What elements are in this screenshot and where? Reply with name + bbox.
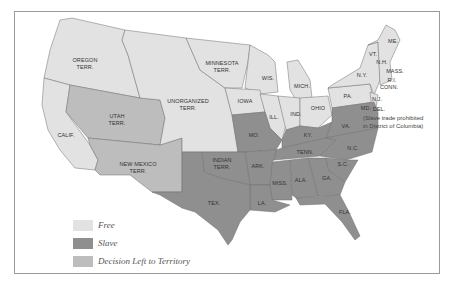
label-florida: FLA. bbox=[339, 209, 351, 216]
label-new-hampshire: N.H. bbox=[376, 59, 387, 66]
label-north-carolina: N.C. bbox=[347, 145, 358, 152]
annotation-line-2: in District of Columbia) bbox=[363, 122, 423, 130]
legend: Free Slave Decision Left to Territory bbox=[73, 216, 190, 270]
label-ohio: OHIO bbox=[311, 105, 325, 112]
label-maine: ME. bbox=[388, 38, 398, 45]
label-illinois: ILL. bbox=[269, 114, 279, 121]
label-kentucky: KY. bbox=[304, 132, 312, 139]
legend-item-territory: Decision Left to Territory bbox=[73, 252, 190, 270]
free-swatch bbox=[73, 220, 93, 231]
label-michigan: MICH. bbox=[294, 83, 310, 90]
label-oregon-terr: OREGON TERR. bbox=[72, 57, 97, 70]
territory-swatch bbox=[73, 256, 93, 267]
label-louisiana: LA. bbox=[258, 200, 267, 207]
region-wisconsin bbox=[245, 45, 278, 94]
label-pennsylvania: PA. bbox=[344, 93, 353, 100]
legend-label-territory: Decision Left to Territory bbox=[98, 256, 190, 266]
label-iowa: IOWA bbox=[238, 98, 253, 105]
dc-annotation: (Slave trade prohibited in District of C… bbox=[363, 114, 423, 130]
region-ohio bbox=[300, 96, 332, 128]
label-new-mexico-terr: NEW MEXICO TERR. bbox=[119, 161, 156, 174]
region-michigan bbox=[287, 60, 312, 100]
label-virginia: VA. bbox=[342, 123, 351, 130]
label-vermont: VT. bbox=[369, 51, 377, 58]
label-texas: TEX. bbox=[208, 200, 221, 207]
label-tennessee: TENN. bbox=[297, 149, 314, 156]
label-alabama: ALA. bbox=[295, 177, 307, 184]
label-delaware: DEL. bbox=[373, 106, 386, 113]
label-utah-terr: UTAH TERR. bbox=[109, 113, 126, 126]
annotation-line-1: (Slave trade prohibited bbox=[363, 114, 423, 122]
label-georgia: GA. bbox=[322, 175, 332, 182]
legend-label-slave: Slave bbox=[98, 238, 118, 248]
label-new-york: N.Y. bbox=[357, 72, 367, 79]
legend-item-slave: Slave bbox=[73, 234, 190, 252]
region-florida bbox=[296, 195, 360, 240]
label-rhode-island: R.I. bbox=[388, 77, 397, 84]
label-wisconsin: WIS. bbox=[262, 75, 274, 82]
us-map-1850 bbox=[0, 0, 451, 285]
label-maryland: MD. bbox=[361, 105, 371, 112]
label-massachusetts: MASS. bbox=[386, 68, 404, 75]
label-new-jersey: N.J. bbox=[372, 96, 382, 103]
label-unorganized-terr: UNORGANIZED TERR. bbox=[167, 98, 209, 111]
label-indiana: IND. bbox=[290, 111, 301, 118]
legend-item-free: Free bbox=[73, 216, 190, 234]
slave-swatch bbox=[73, 238, 93, 249]
label-minnesota-terr: MINNESOTA TERR. bbox=[205, 60, 238, 73]
label-arkansas: ARK. bbox=[251, 163, 264, 170]
label-missouri: MO. bbox=[249, 132, 260, 139]
label-south-carolina: S.C. bbox=[337, 161, 348, 168]
legend-label-free: Free bbox=[98, 220, 115, 230]
label-mississippi: MISS. bbox=[272, 180, 287, 187]
label-indian-terr: INDIAN TERR. bbox=[212, 157, 231, 170]
label-connecticut: CONN. bbox=[380, 84, 398, 91]
label-california: CALIF. bbox=[57, 132, 74, 139]
